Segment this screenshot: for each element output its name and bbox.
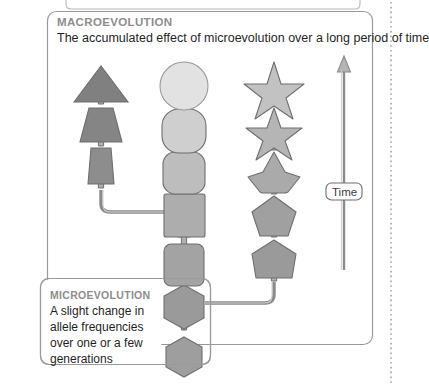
- upper-panel-edge: [66, 0, 360, 9]
- shape-left-narrow-trapezoid: [88, 148, 114, 184]
- shape-mid-rounded-square-md: [163, 152, 205, 194]
- time-axis-label: Time: [332, 186, 357, 198]
- microevolution-heading: MICROEVOLUTION: [50, 289, 150, 301]
- microevolution-line-2: allele frequencies: [50, 320, 143, 334]
- macroevolution-description: The accumulated effect of microevolution…: [57, 31, 429, 45]
- shape-mid-circle: [160, 62, 208, 110]
- microevolution-line-3: over one or a few: [50, 336, 143, 350]
- macroevolution-heading: MACROEVOLUTION: [57, 16, 172, 28]
- microevolution-line-1: A slight change in: [50, 304, 144, 318]
- microevolution-line-4: generations: [50, 352, 113, 366]
- shape-mid-square: [164, 194, 205, 237]
- shape-mid-rounded-square-lg: [162, 109, 206, 153]
